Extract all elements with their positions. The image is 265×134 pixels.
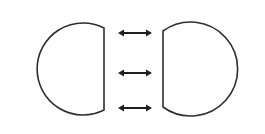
arrow-head-right-icon	[146, 29, 152, 36]
diagram-svg	[0, 0, 265, 134]
arrow-head-left-icon	[118, 69, 124, 76]
arrows-layer	[118, 29, 152, 111]
double-arrow-icon-middle	[118, 69, 152, 76]
shapes-layer	[37, 22, 238, 116]
arrow-head-left-icon	[118, 104, 124, 111]
left-truncated-circle	[37, 23, 104, 115]
arrow-head-right-icon	[146, 69, 152, 76]
right-truncated-circle	[163, 22, 238, 116]
arrow-head-left-icon	[118, 29, 124, 36]
diagram-canvas	[0, 0, 265, 134]
double-arrow-icon-top	[118, 29, 152, 36]
double-arrow-icon-bottom	[118, 104, 152, 111]
arrow-head-right-icon	[146, 104, 152, 111]
